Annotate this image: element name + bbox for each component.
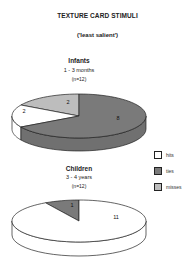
legend-label: misses [166, 184, 182, 190]
children-pie: 111 [12, 200, 146, 256]
legend-item-ties: ties [154, 167, 174, 175]
pie-label-hits: 2 [22, 108, 25, 114]
legend-swatch [154, 167, 162, 175]
infants-pie: 228 [12, 94, 146, 151]
pie-charts: 228111 [0, 0, 195, 265]
pie-label-ties: 1 [70, 202, 73, 208]
legend-label: hits [166, 152, 174, 158]
legend-label: ties [166, 168, 174, 174]
legend-item-misses: misses [154, 183, 182, 191]
legend-item-hits: hits [154, 151, 174, 159]
pie-slice-hits [12, 200, 146, 242]
pie-label-hits: 11 [113, 214, 119, 220]
pie-label-ties: 8 [116, 115, 119, 121]
legend-swatch [154, 151, 162, 159]
legend-swatch [154, 183, 162, 191]
pie-label-misses: 2 [66, 99, 69, 105]
